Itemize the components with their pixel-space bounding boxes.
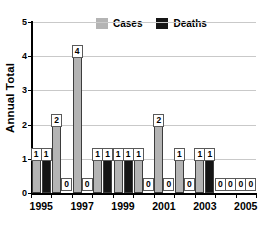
bar-group-2001: 202001 — [154, 22, 174, 193]
x-tick-label-2001: 2001 — [152, 200, 175, 212]
bar-group-2000: 10 — [133, 22, 153, 193]
bar-group-2002: 10 — [174, 22, 194, 193]
x-tick-mark — [215, 193, 216, 198]
bar-cases-1999 — [114, 159, 123, 193]
bar-deaths-2003 — [205, 159, 214, 193]
x-tick-mark — [133, 193, 134, 198]
y-tick-label: 0 — [22, 189, 27, 198]
bar-value-label: 0 — [61, 178, 72, 191]
bar-group-2004: 00 — [215, 22, 235, 193]
bar-deaths-1995 — [42, 159, 51, 193]
bar-chart: Annual Total Cases Deaths 012345 1119952… — [0, 0, 262, 232]
x-tick-label-2003: 2003 — [193, 200, 216, 212]
x-tick-mark — [31, 193, 32, 198]
y-tick-label: 3 — [22, 86, 27, 95]
x-tick-label-1997: 1997 — [70, 200, 93, 212]
bar-group-1995: 111995 — [31, 22, 51, 193]
bar-value-label: 2 — [153, 114, 164, 127]
bar-value-label: 1 — [204, 148, 215, 161]
x-tick-mark — [92, 193, 93, 198]
bar-value-label: 0 — [163, 178, 174, 191]
x-tick-mark — [174, 193, 175, 198]
x-tick-mark — [236, 193, 237, 198]
bar-cases-1996 — [52, 125, 61, 193]
x-tick-label-1999: 1999 — [111, 200, 134, 212]
y-tick-label: 2 — [22, 120, 27, 129]
x-tick-mark — [256, 193, 257, 198]
bar-value-label: 2 — [51, 114, 62, 127]
y-tick-label: 5 — [22, 18, 27, 27]
bar-cases-2003 — [195, 159, 204, 193]
bar-value-label: 1 — [174, 148, 185, 161]
bar-group-1997: 401997 — [72, 22, 92, 193]
bar-group-2003: 112003 — [195, 22, 215, 193]
bar-cases-2002 — [175, 159, 184, 193]
bar-value-label: 1 — [41, 148, 52, 161]
bar-cases-1998 — [93, 159, 102, 193]
y-tick-label: 4 — [22, 52, 27, 61]
bar-cases-2001 — [154, 125, 163, 193]
bar-group-1999: 111999 — [113, 22, 133, 193]
y-tick-label: 1 — [22, 154, 27, 163]
bar-cases-1997 — [73, 56, 82, 193]
bar-value-label: 1 — [123, 148, 134, 161]
y-axis-title-text: Annual Total — [4, 63, 16, 133]
x-tick-label-1995: 1995 — [30, 200, 53, 212]
bar-group-2005: 002005 — [236, 22, 256, 193]
bar-value-label: 0 — [143, 178, 154, 191]
x-tick-mark — [72, 193, 73, 198]
x-axis-line — [31, 193, 257, 195]
x-tick-mark — [51, 193, 52, 198]
x-tick-mark — [154, 193, 155, 198]
bar-value-label: 1 — [102, 148, 113, 161]
bar-deaths-1998 — [103, 159, 112, 193]
bar-value-label: 1 — [133, 148, 144, 161]
bar-value-label: 4 — [72, 45, 83, 58]
x-tick-label-2005: 2005 — [234, 200, 257, 212]
bar-value-label: 0 — [245, 178, 256, 191]
bar-deaths-1999 — [124, 159, 133, 193]
y-axis-title: Annual Total — [0, 0, 20, 195]
bar-cases-1995 — [32, 159, 41, 193]
bar-group-1998: 11 — [92, 22, 112, 193]
x-tick-mark — [113, 193, 114, 198]
bar-value-label: 0 — [184, 178, 195, 191]
plot-area: 012345 111995204019971111199910202001101… — [31, 22, 256, 193]
bar-value-label: 0 — [82, 178, 93, 191]
bar-value-label: 0 — [225, 178, 236, 191]
x-tick-mark — [195, 193, 196, 198]
bar-cases-2000 — [134, 159, 143, 193]
bar-group-1996: 20 — [51, 22, 71, 193]
